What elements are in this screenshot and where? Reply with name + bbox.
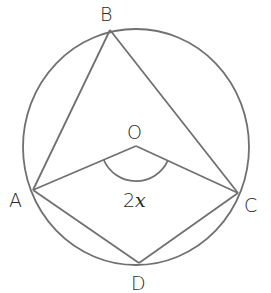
segment-AO xyxy=(33,146,136,190)
point-label-O: O xyxy=(127,121,142,143)
point-label-C: C xyxy=(244,194,257,216)
angle-label: 2x xyxy=(123,189,146,211)
point-label-B: B xyxy=(100,3,112,25)
segment-BC xyxy=(110,30,238,193)
segment-OC xyxy=(136,146,238,193)
point-label-A: A xyxy=(9,189,22,211)
angle-arc-AOC xyxy=(104,160,168,181)
angle-label-variable: x xyxy=(135,189,146,211)
circle-theorem-diagram: B O A C D 2x xyxy=(0,0,271,293)
point-label-D: D xyxy=(131,272,146,293)
angle-label-number: 2 xyxy=(123,189,135,211)
segment-AB xyxy=(33,30,110,190)
